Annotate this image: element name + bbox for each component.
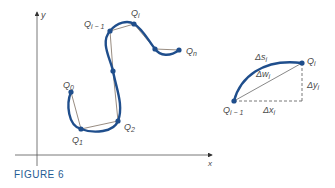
detail-point-start — [231, 98, 236, 103]
label-dy: Δyi — [306, 80, 320, 91]
x-axis-label: x — [207, 159, 213, 168]
label-detail-end: Qi — [307, 56, 316, 67]
label-chord: Δwi — [255, 69, 271, 80]
label-qim1: Qi − 1 — [84, 19, 105, 30]
figure-canvas: y x Q0 Q1 Q2 Qi − 1 Qi Qn Qi − 1 Qi Δsi … — [0, 0, 335, 188]
main-curve — [68, 22, 179, 132]
curve-points — [68, 21, 181, 131]
point-qi — [131, 21, 136, 26]
point-mid2 — [152, 46, 157, 51]
point-qn — [176, 47, 181, 52]
point-qim1 — [107, 28, 112, 33]
point-mid — [110, 68, 115, 73]
label-q1: Q1 — [72, 135, 83, 146]
point-q2 — [115, 118, 120, 123]
label-q2: Q2 — [124, 122, 135, 133]
point-q1 — [78, 126, 83, 131]
chord-polyline — [71, 24, 179, 129]
label-dx: Δxi — [262, 105, 276, 116]
detail-point-end — [299, 60, 304, 65]
label-q0: Q0 — [63, 80, 74, 91]
figure-caption: FIGURE 6 — [14, 169, 64, 180]
label-arc: Δsi — [254, 52, 268, 63]
label-qn: Qn — [186, 46, 197, 57]
y-axis-label: y — [40, 10, 46, 20]
label-detail-start: Qi − 1 — [223, 105, 244, 116]
label-qi: Qi — [131, 8, 140, 19]
detail-diagram: Qi − 1 Qi Δsi Δwi Δyi Δxi — [223, 52, 320, 116]
